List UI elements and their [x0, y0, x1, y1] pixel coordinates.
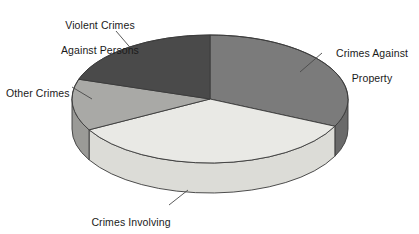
slice-label-crimes-against-property: Crimes Against Property [326, 34, 418, 84]
slice-label-crimes-involving-drugs: Crimes Involving Drugs [76, 203, 186, 234]
slice-label-violent-line2: Against Persons [61, 44, 139, 56]
slice-label-property-line1: Crimes Against [336, 47, 408, 59]
slice-label-drugs-line1: Crimes Involving [91, 216, 170, 228]
slice-label-property-line2: Property [352, 72, 392, 84]
slice-label-other-crimes: Other Crimes [6, 74, 88, 99]
slice-label-violent-line1: Violent Crimes [65, 19, 134, 31]
pie-chart-figure: Violent Crimes Against Persons Crimes Ag… [0, 0, 419, 234]
slice-label-violent-crimes-against-persons: Violent Crimes Against Persons [38, 6, 162, 56]
slice-label-other-line1: Other Crimes [6, 87, 70, 99]
